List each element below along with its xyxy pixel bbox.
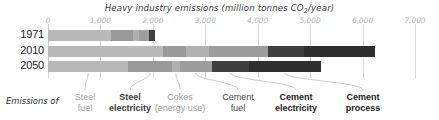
legend-label-line1: Cement: [346, 92, 379, 102]
bar-segment[interactable]: [149, 30, 155, 41]
legend-label-line1: Cement: [279, 92, 312, 102]
bar-segment[interactable]: [128, 61, 172, 72]
year-label-1971: 1971: [8, 28, 44, 40]
year-label-2050: 2050: [8, 59, 44, 71]
chart-container: Heavy industry emissions (million tonnes…: [0, 0, 439, 120]
bar-segment[interactable]: [139, 30, 148, 41]
legend-label-cokes-energy-use[interactable]: Cokes(energy use): [155, 92, 206, 113]
legend-label-line1: Steel: [119, 92, 141, 102]
legend-label-line1: Cokes: [167, 92, 193, 102]
bar-segment[interactable]: [48, 61, 128, 72]
legend-label-line2: electricity: [109, 103, 151, 114]
legend-label-steel-fuel[interactable]: Steelfuel: [75, 92, 96, 113]
tick-label-1000: 1,000: [90, 16, 111, 25]
bar-segment[interactable]: [186, 46, 209, 57]
tick-label-5000: 5,000: [300, 16, 321, 25]
legend-label-line2: electricity: [275, 103, 317, 114]
gridline-7000: [415, 24, 416, 78]
year-label-2010: 2010: [8, 44, 44, 56]
bar-segment[interactable]: [268, 46, 305, 57]
tick-label-4000: 4,000: [247, 16, 268, 25]
legend-label-cement-electricity[interactable]: Cementelectricity: [275, 92, 317, 113]
bar-segment[interactable]: [304, 46, 375, 57]
bar-segment[interactable]: [48, 30, 111, 41]
tick-label-7000: 7,000: [404, 16, 425, 25]
bar-segment[interactable]: [212, 61, 249, 72]
bar-segment[interactable]: [172, 61, 179, 72]
legend-label-line2: process: [346, 103, 381, 114]
bar-segment[interactable]: [111, 30, 134, 41]
bar-segment[interactable]: [249, 61, 321, 72]
legend-label-steel-electricity[interactable]: Steelelectricity: [109, 92, 151, 113]
tick-label-0: 0: [46, 16, 51, 25]
legend-label-line2: fuel: [75, 103, 96, 114]
tick-label-6000: 6,000: [352, 16, 373, 25]
bar-segment[interactable]: [163, 46, 186, 57]
chart-title: Heavy industry emissions (million tonnes…: [0, 3, 439, 13]
legend-label-line2: (energy use): [155, 103, 206, 114]
legend-label-line1: Cement: [222, 92, 254, 102]
bar-segment[interactable]: [48, 46, 163, 57]
bar-segment[interactable]: [180, 61, 213, 72]
legend-label-line2: fuel: [222, 103, 254, 114]
legend-prefix-label: Emissions of: [6, 96, 58, 106]
legend-label-line1: Steel: [75, 92, 96, 102]
tick-label-3000: 3,000: [195, 16, 216, 25]
chart-title-suffix: /year): [308, 3, 334, 13]
chart-title-subscript: 2: [304, 7, 308, 15]
tick-label-2000: 2,000: [142, 16, 163, 25]
legend-label-cement-fuel[interactable]: Cementfuel: [222, 92, 254, 113]
bar-segment[interactable]: [209, 46, 268, 57]
chart-title-prefix: Heavy industry emissions (million tonnes…: [105, 3, 304, 13]
legend-label-cement-process[interactable]: Cementprocess: [346, 92, 381, 113]
